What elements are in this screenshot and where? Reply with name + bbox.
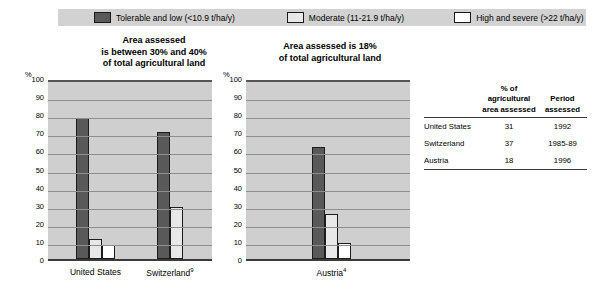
legend: Tolerable and low (<10.9 t/ha/y) Moderat… — [58, 9, 586, 26]
y-tick-0: 0 — [20, 257, 44, 265]
x-axis-label: Switzerland9 — [146, 267, 193, 278]
summary-table: % of agricultural Period area assessed a… — [424, 84, 587, 170]
y-tick-70: 70 — [20, 131, 44, 139]
legend-label-moderate: Moderate (11-21.9 t/ha/y) — [309, 13, 404, 23]
y-tick-20: 20 — [218, 221, 242, 229]
bar-group — [157, 132, 183, 259]
gridline-70 — [48, 136, 212, 137]
table-header-pct-line2: area assessed — [480, 105, 538, 117]
bar-group — [76, 118, 115, 259]
table-header-blank-2 — [424, 105, 480, 117]
gridline-80 — [48, 118, 212, 119]
chart-title-right: Area assessed is 18%of total agricultura… — [240, 41, 420, 64]
y-tick-40: 40 — [20, 185, 44, 193]
y-tick-10: 10 — [218, 239, 242, 247]
bar-group — [312, 147, 351, 259]
table-cell-country: Austria — [424, 152, 480, 170]
table-cell-pct: 37 — [480, 135, 538, 152]
table-cell-country: United States — [424, 117, 480, 135]
gridline-50 — [246, 173, 410, 174]
gridline-30 — [246, 209, 410, 210]
y-tick-10: 10 — [20, 239, 44, 247]
plot-area-right — [246, 80, 410, 261]
table-cell-period: 1992 — [538, 117, 587, 135]
table-header-period-line2: assessed — [538, 105, 587, 117]
y-tick-80: 80 — [20, 112, 44, 120]
table-head: % of agricultural Period area assessed a… — [424, 84, 587, 117]
bars-layer-left — [48, 82, 212, 259]
x-axis-label: Austria4 — [317, 267, 347, 278]
table-cell-pct: 31 — [480, 117, 538, 135]
table-cell-country: Switzerland — [424, 135, 480, 152]
gridline-60 — [246, 154, 410, 155]
gridline-60 — [48, 154, 212, 155]
bar-high — [102, 245, 115, 259]
gridline-90 — [48, 100, 212, 101]
bar-tolerable — [312, 147, 325, 259]
y-tick-40: 40 — [218, 185, 242, 193]
y-axis-left: 0102030405060708090100 — [20, 80, 44, 261]
y-tick-80: 80 — [218, 112, 242, 120]
table-body: United States311992Switzerland371985-89A… — [424, 117, 587, 169]
table-header-blank — [424, 84, 480, 105]
chart-right: 0102030405060708090100 Austria4 — [246, 80, 410, 261]
table-cell-period: 1996 — [538, 152, 587, 170]
table-header-line1: % of agricultural Period — [424, 84, 587, 105]
gridline-50 — [48, 173, 212, 174]
gridline-90 — [246, 100, 410, 101]
table-header-pct-line1: % of agricultural — [480, 84, 538, 105]
table-header-line2: area assessed assessed — [424, 105, 587, 117]
chart-title-left: Area assessedis between 30% and 40%of to… — [56, 35, 252, 70]
bar-moderate — [325, 214, 338, 259]
y-tick-30: 30 — [20, 203, 44, 211]
y-axis-right: 0102030405060708090100 — [218, 80, 242, 261]
bar-moderate — [170, 207, 183, 259]
gridline-10 — [246, 245, 410, 246]
gridline-80 — [246, 118, 410, 119]
bars-layer-right — [246, 82, 410, 259]
y-tick-50: 50 — [218, 167, 242, 175]
y-tick-30: 30 — [218, 203, 242, 211]
y-tick-0: 0 — [218, 257, 242, 265]
x-axis-label: United States — [70, 267, 121, 277]
gridline-20 — [48, 227, 212, 228]
plot-area-left — [48, 80, 212, 261]
bar-moderate — [89, 239, 102, 259]
legend-swatch-high — [454, 12, 471, 23]
legend-swatch-tolerable — [94, 12, 111, 23]
legend-label-tolerable: Tolerable and low (<10.9 t/ha/y) — [116, 13, 235, 23]
legend-item-moderate: Moderate (11-21.9 t/ha/y) — [287, 12, 404, 23]
gridline-10 — [48, 245, 212, 246]
y-tick-100: 100 — [20, 76, 44, 84]
y-tick-60: 60 — [218, 149, 242, 157]
table-row: United States311992 — [424, 117, 587, 135]
bar-tolerable — [157, 132, 170, 259]
table-row: Switzerland371985-89 — [424, 135, 587, 152]
gridline-40 — [246, 191, 410, 192]
y-tick-90: 90 — [20, 94, 44, 102]
y-tick-90: 90 — [218, 94, 242, 102]
table-row: Austria181996 — [424, 152, 587, 170]
table-header-period-line1: Period — [538, 84, 587, 105]
gridline-70 — [246, 136, 410, 137]
gridline-30 — [48, 209, 212, 210]
table-cell-pct: 18 — [480, 152, 538, 170]
gridline-40 — [48, 191, 212, 192]
legend-label-high: High and severe (>22 t/ha/y) — [476, 13, 584, 23]
legend-item-high: High and severe (>22 t/ha/y) — [454, 12, 584, 23]
table-cell-period: 1985-89 — [538, 135, 587, 152]
bar-tolerable — [76, 118, 89, 259]
y-tick-20: 20 — [20, 221, 44, 229]
y-tick-50: 50 — [20, 167, 44, 175]
gridline-20 — [246, 227, 410, 228]
y-tick-70: 70 — [218, 131, 242, 139]
y-tick-60: 60 — [20, 149, 44, 157]
chart-left: 0102030405060708090100 United StatesSwit… — [48, 80, 212, 261]
y-tick-100: 100 — [218, 76, 242, 84]
legend-swatch-moderate — [287, 12, 304, 23]
legend-item-tolerable: Tolerable and low (<10.9 t/ha/y) — [94, 12, 235, 23]
